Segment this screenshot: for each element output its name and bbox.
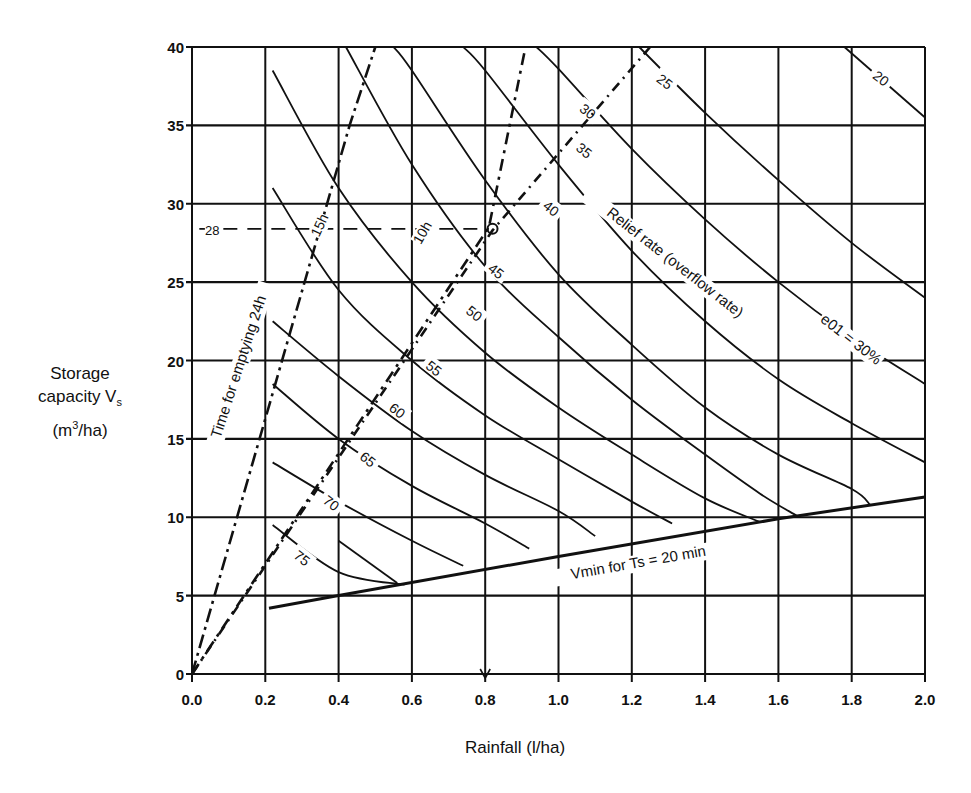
relief-curve-55	[273, 188, 672, 523]
curve-label-40: 40	[537, 194, 566, 222]
curve-label-70: 70	[317, 489, 346, 517]
y-tick-label: 25	[167, 274, 184, 291]
annotation-10h-text: 10h	[409, 218, 435, 246]
curve-label-65: 65	[354, 445, 383, 473]
curve-label-60: 60	[383, 396, 412, 424]
curve-label-75: 75	[288, 544, 317, 572]
annotation-time-emptying-text: Time for emptying 24h	[207, 293, 269, 440]
y-axis-label-line1: Storage	[10, 362, 150, 385]
annotations: 2815h10hRelief rate (overflow rate)e01 =…	[199, 186, 886, 678]
annotation-28-text: 28	[205, 223, 219, 238]
annotation-10h: 10h	[409, 218, 436, 247]
annotation-vmin: Vmin for Ts = 20 min	[554, 539, 723, 586]
y-tick-label: 30	[167, 196, 184, 213]
x-tick-label: 0.8	[475, 691, 496, 708]
annotation-15h: 15h	[307, 211, 333, 240]
y-axis-label-line3: (m3/ha)	[10, 414, 150, 442]
annotation-15h-text: 15h	[307, 211, 331, 239]
y-axis-label: Storage capacity Vs (m3/ha)	[10, 362, 150, 442]
annotation-relief-rate-text: Relief rate (overflow rate)	[604, 204, 747, 321]
y-axis-label-line2: capacity Vs	[10, 385, 150, 414]
curve-label-55: 55	[420, 354, 449, 382]
vmin-line	[269, 497, 925, 608]
annotation-vmin-text: Vmin for Ts = 20 min	[569, 542, 707, 583]
y-tick-label: 0	[176, 666, 184, 683]
y-tick-label: 10	[167, 509, 184, 526]
x-tick-label: 0.4	[328, 691, 350, 708]
grid	[186, 47, 925, 682]
annotation-relief-rate: Relief rate (overflow rate)	[580, 186, 770, 340]
y-tick-label: 35	[167, 117, 184, 134]
y-tick-label: 20	[167, 353, 184, 370]
y-tick-label: 5	[176, 588, 184, 605]
relief-curve-30	[537, 47, 925, 384]
vmin-line-path	[269, 497, 925, 608]
x-tick-label: 1.0	[548, 691, 569, 708]
x-tick-label: 1.6	[768, 691, 789, 708]
y-tick-label: 40	[167, 39, 184, 56]
x-tick-label: 2.0	[915, 691, 936, 708]
relief-curve-75b	[339, 541, 398, 583]
y-axis-ticks: 0510152025303540	[167, 39, 184, 683]
x-tick-label: 0.0	[182, 691, 203, 708]
curve-label-45: 45	[482, 257, 511, 285]
x-tick-label: 1.2	[621, 691, 642, 708]
x-tick-label: 0.6	[401, 691, 422, 708]
x-tick-label: 1.8	[841, 691, 862, 708]
y-tick-label: 15	[167, 431, 184, 448]
x-axis-ticks: 0.00.20.40.60.81.01.21.41.61.82.0	[182, 691, 936, 708]
curve-label-25: 25	[650, 67, 679, 95]
x-tick-label: 0.2	[255, 691, 276, 708]
annotation-28: 28	[205, 223, 220, 239]
x-tick-label: 1.4	[695, 691, 717, 708]
curve-label-35: 35	[570, 136, 599, 164]
x-axis-label: Rainfall (l/ha)	[410, 738, 620, 758]
relief-curve-50	[273, 71, 760, 522]
